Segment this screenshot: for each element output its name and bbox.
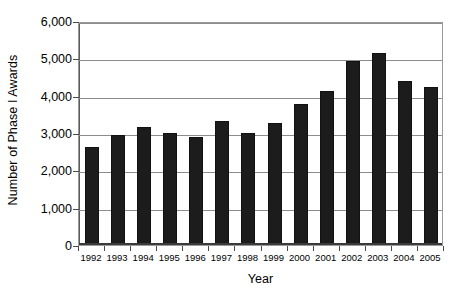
x-axis-tick-mark	[261, 246, 262, 251]
x-axis-title: Year	[78, 272, 443, 286]
x-axis-tick-mark	[443, 246, 444, 251]
x-axis-tick-mark	[208, 246, 209, 251]
bar	[268, 123, 282, 245]
bar	[85, 147, 99, 245]
x-axis-tick-mark	[234, 246, 235, 251]
y-axis-tick-mark	[73, 22, 79, 23]
y-axis-tick-labels: 01,0002,0003,0004,0005,0006,000	[22, 22, 72, 246]
y-axis-tick-mark	[73, 209, 79, 210]
bar	[320, 91, 334, 245]
x-axis-tick-mark	[365, 246, 366, 251]
x-axis-tick-label: 2005	[410, 252, 450, 263]
bar	[294, 104, 308, 245]
y-axis-tick-label: 1,000	[22, 202, 72, 215]
bar	[424, 87, 438, 245]
bar	[215, 121, 229, 245]
bar	[241, 133, 255, 245]
bar-chart-figure: Number of Phase I Awards 01,0002,0003,00…	[0, 0, 470, 299]
x-axis-tick-mark	[130, 246, 131, 251]
y-axis-tick-label: 4,000	[22, 90, 72, 103]
y-axis-tick-label: 2,000	[22, 165, 72, 178]
y-axis-title-text: Number of Phase I Awards	[6, 55, 20, 206]
bar	[111, 135, 125, 245]
bar	[163, 133, 177, 245]
bar	[137, 127, 151, 245]
x-axis-line	[79, 243, 442, 245]
y-axis-tick-mark	[73, 97, 79, 98]
x-axis-tick-mark	[287, 246, 288, 251]
y-axis-tick-label: 3,000	[22, 128, 72, 141]
x-axis-tick-mark	[417, 246, 418, 251]
y-axis-tick-mark	[73, 134, 79, 135]
y-axis-tick-label: 0	[22, 240, 72, 253]
x-axis-tick-mark	[339, 246, 340, 251]
y-axis-tick-mark	[73, 171, 79, 172]
bar	[346, 61, 360, 245]
bar-series	[79, 23, 442, 245]
y-axis-tick-label: 5,000	[22, 53, 72, 66]
x-axis-tick-labels: 1992199319941995199619971998199920002001…	[78, 252, 443, 268]
bar	[372, 53, 386, 245]
x-axis-tick-mark	[156, 246, 157, 251]
x-axis-tick-mark	[313, 246, 314, 251]
x-axis-tick-mark	[182, 246, 183, 251]
x-axis-tick-mark	[104, 246, 105, 251]
bar	[398, 81, 412, 245]
plot-area	[78, 22, 443, 246]
y-axis-tick-mark	[73, 59, 79, 60]
x-axis-tick-mark	[78, 246, 79, 251]
y-axis-tick-label: 6,000	[22, 16, 72, 29]
bar	[189, 137, 203, 245]
x-axis-tick-mark	[391, 246, 392, 251]
